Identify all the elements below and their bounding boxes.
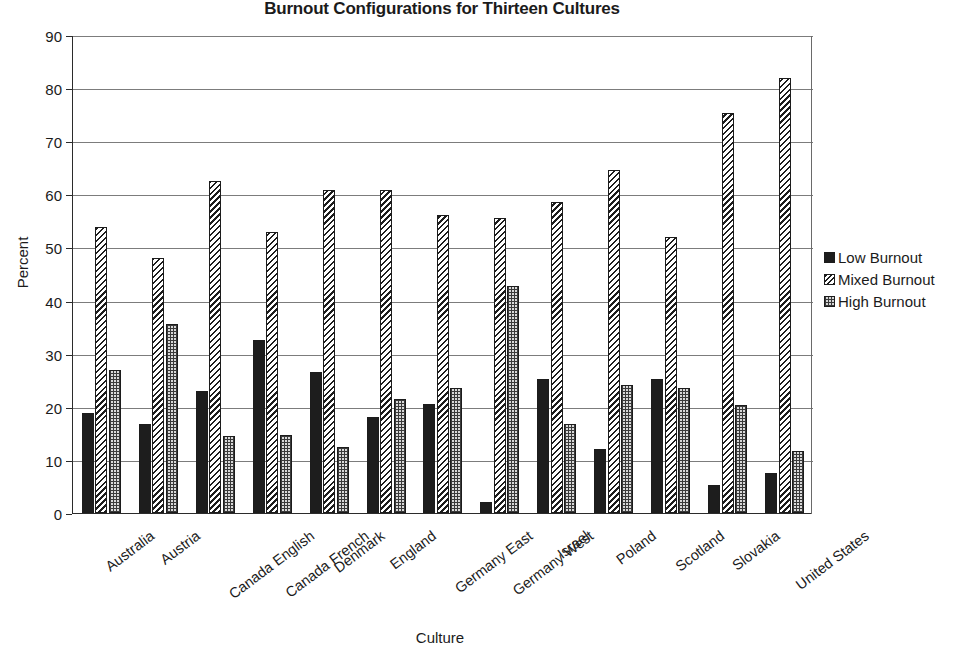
x-tick-label: United States [792, 528, 871, 593]
bar-group [642, 35, 699, 513]
bar [253, 340, 265, 513]
bar-group [73, 35, 130, 513]
x-tick-label: Scotland [672, 528, 727, 575]
bar-group [301, 35, 358, 513]
legend-label: Mixed Burnout [838, 272, 935, 287]
y-tick-mark [66, 514, 72, 515]
bar [722, 113, 734, 513]
y-tick-label: 30 [10, 348, 62, 363]
bar-group [471, 35, 528, 513]
bar [337, 447, 349, 513]
bar [310, 372, 322, 513]
bar [139, 424, 151, 513]
y-tick-label: 0 [10, 507, 62, 522]
bar [280, 435, 292, 513]
bar [608, 170, 620, 513]
bar-group [358, 35, 415, 513]
bar [507, 286, 519, 513]
bar-group [756, 35, 813, 513]
bar [109, 370, 121, 513]
y-tick-label: 70 [10, 135, 62, 150]
bar-group [244, 35, 301, 513]
bar [380, 190, 392, 513]
bar [537, 379, 549, 513]
legend-item: High Burnout [824, 290, 958, 312]
x-tick-label: Austria [158, 528, 204, 568]
x-tick-label: England [387, 528, 439, 573]
bar-group [415, 35, 472, 513]
bar-group [585, 35, 642, 513]
bar [621, 385, 633, 513]
bar [480, 502, 492, 513]
x-tick-label: Poland [613, 528, 659, 568]
bar [450, 388, 462, 513]
bar [209, 181, 221, 513]
bar [594, 449, 606, 513]
bar-group [187, 35, 244, 513]
bar [196, 391, 208, 513]
bar [678, 388, 690, 513]
bar [494, 218, 506, 513]
bar-group [130, 35, 187, 513]
legend-item: Low Burnout [824, 246, 958, 268]
bar [437, 215, 449, 513]
bar [765, 473, 777, 513]
y-tick-label: 50 [10, 241, 62, 256]
bar [394, 399, 406, 513]
bar [779, 78, 791, 513]
legend-item: Mixed Burnout [824, 268, 958, 290]
y-tick-label: 10 [10, 454, 62, 469]
bar [423, 404, 435, 513]
bar [564, 424, 576, 513]
x-tick-label: Slovakia [729, 528, 782, 574]
y-tick-label: 80 [10, 82, 62, 97]
bar [82, 413, 94, 513]
x-axis-title: Culture [340, 629, 540, 646]
y-tick-label: 60 [10, 188, 62, 203]
bar [735, 405, 747, 513]
bar-group [699, 35, 756, 513]
legend-label: High Burnout [838, 294, 926, 309]
bar-group [528, 35, 585, 513]
bar [708, 485, 720, 513]
legend-label: Low Burnout [838, 250, 922, 265]
bar [792, 451, 804, 513]
chart-title: Burnout Configurations for Thirteen Cult… [72, 0, 812, 19]
bar [367, 417, 379, 513]
legend-swatch-icon [824, 274, 835, 285]
legend-swatch-icon [824, 252, 835, 263]
y-tick-label: 40 [10, 295, 62, 310]
bar [152, 258, 164, 513]
chart-legend: Low BurnoutMixed BurnoutHigh Burnout [824, 246, 958, 312]
x-tick-label: Australia [103, 528, 158, 575]
y-tick-label: 90 [10, 29, 62, 44]
bar [223, 436, 235, 513]
bar-chart: Burnout Configurations for Thirteen Cult… [0, 0, 961, 646]
bar [551, 202, 563, 513]
bar [95, 227, 107, 513]
bar [323, 190, 335, 513]
bar [665, 237, 677, 513]
bar [266, 232, 278, 513]
bar [166, 324, 178, 513]
legend-swatch-icon [824, 296, 835, 307]
y-tick-label: 20 [10, 401, 62, 416]
bar [651, 379, 663, 513]
plot-area [72, 36, 812, 514]
